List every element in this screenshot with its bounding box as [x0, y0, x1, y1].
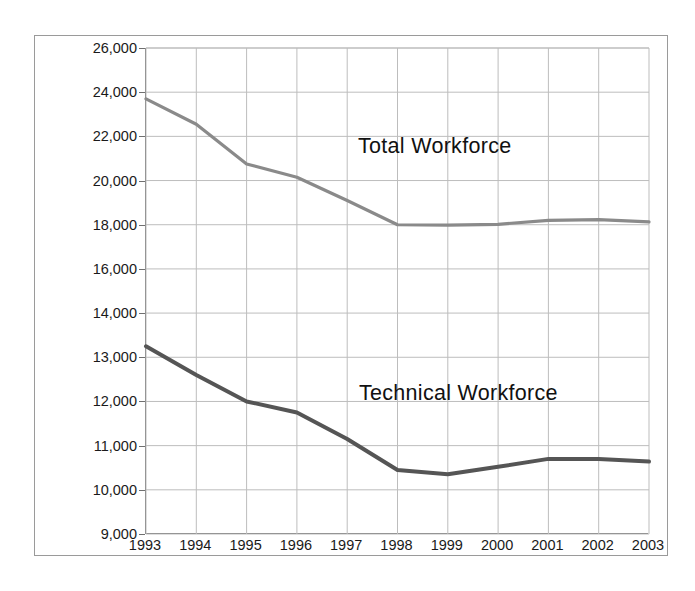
y-axis-tick-label: 24,000: [69, 84, 137, 100]
chart-series-lines: [146, 48, 649, 534]
y-axis-tick-label: 13,000: [69, 349, 137, 365]
y-axis-title: Full Time Persons Employment: [22, 0, 48, 74]
y-axis-tick-label: 26,000: [69, 40, 137, 56]
x-axis-tick-label: 2003: [618, 537, 678, 553]
y-axis-tick-mark: [139, 534, 145, 535]
series-label-total-workforce: Total Workforce: [358, 134, 511, 159]
x-axis-tick-labels: 1993199419951996199719981999200020012002…: [145, 537, 648, 561]
y-axis-tick-label: 16,000: [69, 261, 137, 277]
y-axis-tick-label: 18,000: [69, 217, 137, 233]
y-axis-tick-label: 12,000: [69, 393, 137, 409]
y-axis-tick-label: 10,000: [69, 482, 137, 498]
plot-area: [145, 48, 648, 534]
y-axis-tick-label: 22,000: [69, 128, 137, 144]
y-axis-tick-labels: 26,00024,00022,00020,00018,00016,00014,0…: [63, 48, 137, 534]
series-line: [146, 346, 649, 474]
chart-screenshot: Full Time Persons Employment 26,00024,00…: [0, 0, 695, 591]
y-axis-tick-label: 11,000: [69, 438, 137, 454]
series-label-technical-workforce: Technical Workforce: [359, 381, 558, 406]
y-axis-tick-label: 20,000: [69, 173, 137, 189]
y-axis-tick-label: 14,000: [69, 305, 137, 321]
series-line: [146, 99, 649, 225]
